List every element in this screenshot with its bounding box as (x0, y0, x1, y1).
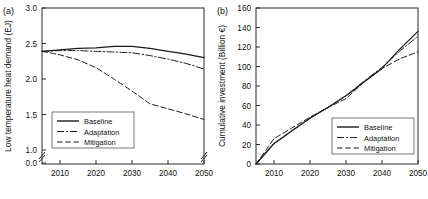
figure-container: (a)Low temperature heat demand (EJ)0.01.… (0, 0, 428, 199)
legend-label-adaptation: Adaptation (364, 134, 399, 143)
x-tick-label: 2040 (159, 169, 178, 178)
panel-tag: (a) (3, 6, 14, 16)
chart-legend: BaselineAdaptationMitigation (52, 112, 134, 148)
chart-svg: (b)Cumulative investment (Billion €)0204… (214, 0, 428, 199)
x-tick-label: 2050 (409, 169, 428, 178)
legend-label-adaptation: Adaptation (84, 128, 119, 137)
x-tick-label: 2010 (265, 169, 284, 178)
chart-legend: BaselineAdaptationMitigation (332, 118, 414, 154)
x-tick-label: 2050 (195, 169, 214, 178)
y-tick-label: 1.5 (26, 111, 38, 120)
x-tick-label: 2030 (337, 169, 356, 178)
legend-label-baseline: Baseline (84, 117, 112, 126)
y-tick-label: 2.0 (26, 75, 38, 84)
y-tick-label: 0.0 (26, 159, 38, 168)
x-tick-label: 2020 (87, 169, 106, 178)
y-tick-label: 20 (242, 141, 252, 150)
y-tick-label: 60 (242, 102, 252, 111)
y-tick-label: 160 (237, 4, 251, 13)
x-tick-label: 2010 (51, 169, 70, 178)
y-axis-title: Cumulative investment (Billion €) (217, 25, 227, 147)
y-tick-label: 2.5 (26, 40, 38, 49)
y-axis-title: Low temperature heat demand (EJ) (3, 20, 13, 152)
y-tick-label: 140 (237, 24, 251, 33)
legend-label-mitigation: Mitigation (364, 144, 396, 153)
y-tick-label: 120 (237, 43, 251, 52)
chart-panel-b: (b)Cumulative investment (Billion €)0204… (214, 0, 428, 199)
y-tick-label: 0 (246, 160, 251, 169)
chart-svg: (a)Low temperature heat demand (EJ)0.01.… (0, 0, 214, 199)
y-tick-label: 40 (242, 121, 252, 130)
x-tick-label: 2040 (373, 169, 392, 178)
panel-tag: (b) (217, 6, 228, 16)
y-tick-label: 100 (237, 63, 251, 72)
y-tick-label: 3.0 (26, 4, 38, 13)
chart-panel-a: (a)Low temperature heat demand (EJ)0.01.… (0, 0, 214, 199)
x-tick-label: 2020 (301, 169, 320, 178)
y-tick-label: 80 (242, 82, 252, 91)
x-tick-label: 2030 (123, 169, 142, 178)
y-tick-label: 1.0 (26, 146, 38, 155)
series-line-mitigation (42, 51, 204, 119)
legend-label-baseline: Baseline (364, 123, 392, 132)
legend-label-mitigation: Mitigation (84, 138, 116, 147)
